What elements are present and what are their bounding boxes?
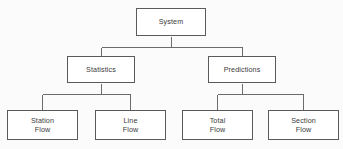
node-statistics[interactable]: Statistics bbox=[67, 56, 135, 83]
node-system-label: System bbox=[159, 17, 184, 26]
node-predictions-label: Predictions bbox=[224, 65, 261, 74]
node-station-flow-label-line1: Station bbox=[31, 116, 54, 125]
node-section-flow-label-line1: Section bbox=[291, 116, 316, 125]
node-predictions[interactable]: Predictions bbox=[208, 56, 276, 83]
node-system[interactable]: System bbox=[136, 8, 206, 36]
diagram-canvas: System Statistics Predictions Station Fl… bbox=[0, 0, 343, 149]
node-section-flow[interactable]: Section Flow bbox=[268, 110, 339, 140]
node-line-flow[interactable]: Line Flow bbox=[95, 110, 166, 140]
node-total-flow-label-line1: Total bbox=[210, 116, 226, 125]
node-line-flow-label-line1: Line bbox=[124, 116, 138, 125]
node-statistics-label: Statistics bbox=[86, 65, 116, 74]
node-section-flow-label-line2: Flow bbox=[296, 125, 312, 134]
node-station-flow[interactable]: Station Flow bbox=[7, 110, 78, 140]
node-line-flow-label-line2: Flow bbox=[123, 125, 139, 134]
node-total-flow-label-line2: Flow bbox=[210, 125, 226, 134]
node-station-flow-label-line2: Flow bbox=[35, 125, 51, 134]
node-total-flow[interactable]: Total Flow bbox=[182, 110, 253, 140]
